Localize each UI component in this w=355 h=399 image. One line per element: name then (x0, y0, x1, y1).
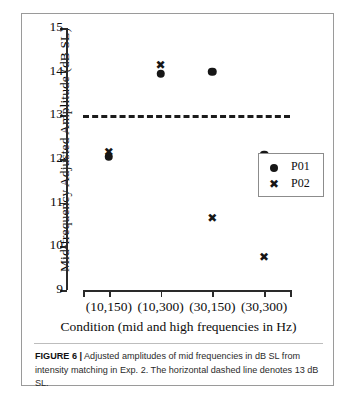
legend-label-p02: P02 (285, 176, 310, 191)
circle-marker-icon (263, 158, 285, 176)
legend-label-p01: P01 (285, 159, 310, 174)
x-axis-title: Condition (mid and high frequencies in H… (22, 319, 335, 335)
x-tick-mark (264, 290, 266, 297)
figure-caption-label: FIGURE 6 | (35, 351, 82, 361)
x-axis-end-cap (290, 290, 292, 297)
x-axis-line (83, 290, 290, 292)
x-marker-icon: ✖ (207, 212, 217, 224)
y-tick-label: 9 (56, 281, 63, 297)
x-tick-mark (161, 290, 163, 297)
circle-marker-icon (208, 67, 217, 76)
x-tick-mark (212, 290, 214, 297)
x-marker-icon: ✖ (263, 177, 285, 191)
y-tick-label: 12 (50, 150, 64, 166)
figure-caption: FIGURE 6 | Adjusted amplitudes of mid fr… (35, 350, 324, 391)
y-tick-label: 15 (50, 19, 64, 35)
legend-item-p01: P01 (263, 158, 318, 175)
legend: P01 ✖ P02 (258, 153, 324, 197)
y-tick-label: 13 (50, 106, 64, 122)
y-tick-label: 14 (50, 63, 64, 79)
x-tick-mark (109, 290, 111, 297)
x-marker-icon: ✖ (156, 59, 166, 71)
x-tick-label: (30,150) (189, 299, 235, 315)
scatter-plot: Mid-frequency Adjusted Amplitude (dB SL)… (22, 14, 335, 314)
threshold-dashed-line (83, 115, 290, 118)
x-marker-icon: ✖ (104, 146, 114, 158)
x-tick-label: (30,300) (241, 299, 287, 315)
x-marker-icon: ✖ (259, 251, 269, 263)
x-axis-end-cap (83, 290, 85, 297)
x-tick-label: (10,150) (86, 299, 132, 315)
figure-panel: Mid-frequency Adjusted Amplitude (dB SL)… (21, 13, 334, 386)
x-tick-label: (10,300) (138, 299, 184, 315)
legend-item-p02: ✖ P02 (263, 175, 318, 192)
y-tick-label: 10 (50, 237, 64, 253)
y-tick-label: 11 (50, 194, 63, 210)
caption-divider (34, 343, 323, 344)
